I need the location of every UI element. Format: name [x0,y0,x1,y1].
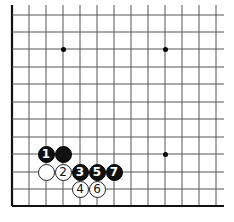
black-stone-1: 1 [38,146,55,163]
move-number: 7 [110,166,118,178]
star-point [163,47,168,52]
move-number: 5 [93,166,101,178]
white-stone-6: 6 [89,181,106,198]
black-stone-3: 3 [72,164,89,181]
black-stone [55,146,72,163]
move-number: 2 [59,166,67,178]
white-stone-2: 2 [55,164,72,181]
go-board-diagram: 1235746 [0,0,234,222]
white-stone [38,164,55,181]
black-stone-7: 7 [106,164,123,181]
move-number: 4 [76,183,84,195]
move-number: 3 [76,166,84,178]
move-number: 6 [93,183,101,195]
move-number: 1 [42,148,50,160]
star-point [163,152,168,157]
black-stone-5: 5 [89,164,106,181]
board-grid [0,0,234,222]
white-stone-4: 4 [72,181,89,198]
star-point [61,47,66,52]
